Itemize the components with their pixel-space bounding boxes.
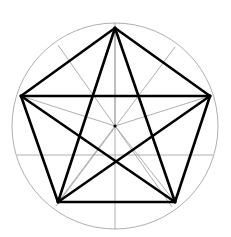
center-marker bbox=[113, 124, 116, 127]
star-chord-bottom-left-to-top bbox=[58, 28, 115, 202]
vertex-marker-bottom-right bbox=[174, 201, 177, 204]
pentagon-edge-left-to-top bbox=[21, 28, 115, 96]
pentagon-pentagram-diagram bbox=[0, 0, 231, 237]
construction-line-radius-to-left bbox=[21, 96, 115, 126]
construction-line-radius-to-bottom-left bbox=[58, 126, 115, 202]
vertex-marker-left bbox=[20, 95, 23, 98]
construction-line-radius-to-bottom-right bbox=[115, 126, 175, 202]
figure-canvas bbox=[0, 0, 231, 237]
vertex-marker-bottom-left bbox=[57, 201, 60, 204]
star-chord-bottom-right-to-left bbox=[21, 96, 175, 202]
vertex-marker-right bbox=[209, 95, 212, 98]
construction-line-radius-to-right bbox=[115, 96, 210, 126]
vertex-marker-top bbox=[114, 27, 117, 30]
star-chord-right-to-bottom-left bbox=[58, 96, 210, 202]
pentagon-edge-right-to-bottom-right bbox=[175, 96, 210, 202]
pentagon-edge-bottom-left-to-left bbox=[21, 96, 58, 202]
